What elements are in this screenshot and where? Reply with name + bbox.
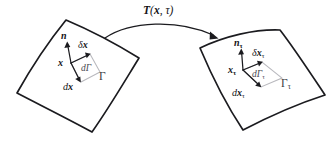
- reference-area-gamma: Γ: [86, 63, 91, 73]
- figure-canvas: [0, 0, 335, 144]
- deformed-area-label: dΓτ: [252, 70, 265, 80]
- reference-normal-label: n: [61, 31, 67, 41]
- deformed-normal-label: nτ: [234, 38, 243, 50]
- reference-point-symbol: x: [58, 57, 63, 68]
- deformed-domain-subscript: τ: [288, 82, 291, 91]
- deformed-point-subscript: τ: [233, 69, 236, 76]
- map-arrowhead: [210, 32, 219, 40]
- reference-area-label: dΓ: [81, 64, 91, 74]
- deformed-normal-subscript: τ: [240, 42, 243, 49]
- reference-d-x-label: dx: [63, 82, 73, 92]
- deformation-figure: T(x, τ) n δx x dΓ dx Γ nτ δxτ xτ dΓτ dxτ…: [0, 0, 335, 144]
- map-label-symbol: T: [143, 4, 150, 16]
- reference-delta-x-var: x: [83, 39, 88, 50]
- deformed-domain-symbol: Γ: [281, 77, 288, 89]
- map-label-close-paren: ): [170, 4, 174, 16]
- reference-normal-symbol: n: [61, 30, 67, 41]
- deformed-d-x-label: dxτ: [232, 88, 245, 100]
- map-arrow-curve: [105, 24, 213, 38]
- reference-domain-label: Γ: [99, 71, 106, 83]
- deformed-area-subscript: τ: [262, 73, 265, 80]
- deformed-delta-x-subscript: τ: [262, 52, 265, 59]
- map-arrow-label: T(x, τ): [143, 5, 173, 17]
- deformed-d-x-subscript: τ: [242, 92, 245, 99]
- reference-delta-x-label: δx: [78, 40, 88, 50]
- deformed-point-label: xτ: [228, 65, 236, 77]
- reference-domain-symbol: Γ: [99, 70, 106, 82]
- reference-point-label: x: [58, 58, 63, 68]
- reference-d-x-var: x: [68, 81, 73, 92]
- deformed-delta-x-label: δxτ: [252, 48, 264, 60]
- deformed-domain-label: Γτ: [281, 78, 291, 91]
